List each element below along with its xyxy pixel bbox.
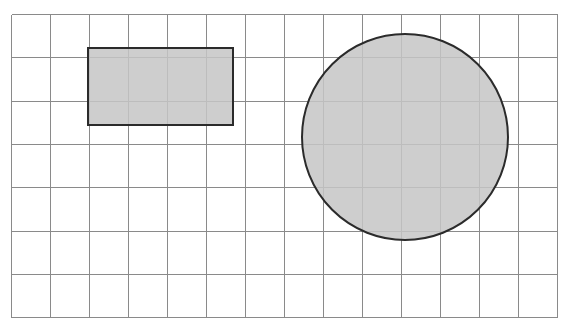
diagram-canvas: [0, 0, 568, 332]
shaded-circle: [302, 34, 508, 240]
shaded-rectangle: [88, 48, 233, 125]
grid-diagram: [0, 0, 568, 332]
